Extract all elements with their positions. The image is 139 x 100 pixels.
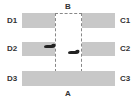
label-d1: D1 [7,17,17,25]
label-d3: D3 [7,75,17,83]
label-c3: C3 [120,75,130,83]
label-d2: D2 [7,45,17,53]
footprint-icon [67,48,81,56]
label-a: A [65,90,71,98]
bar-c1 [81,13,115,28]
label-c2: C2 [120,45,130,53]
bar-d1 [22,13,56,28]
footprint-icon [43,42,57,50]
dashed-gap-region [55,13,82,72]
bar-c2 [81,42,115,56]
label-c1: C1 [120,17,130,25]
bar-d3-c3 [22,71,115,86]
label-b: B [65,3,71,11]
